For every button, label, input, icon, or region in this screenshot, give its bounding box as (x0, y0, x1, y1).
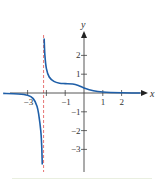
y-tick-label: −3 (71, 144, 81, 154)
y-tick-label: 2 (76, 50, 81, 60)
y-tick-label: −2 (71, 126, 81, 136)
x-tick-label: −1 (61, 97, 71, 107)
bottom-rule (12, 178, 152, 179)
y-axis-label: y (80, 19, 86, 30)
y-tick-label: 1 (76, 69, 81, 79)
axis-ticks: −3−112−3−2−112 (24, 50, 125, 154)
y-tick-label: −1 (71, 107, 81, 117)
x-axis-arrow-icon (141, 90, 148, 96)
y-axis-arrow-icon (81, 31, 87, 38)
x-axis-label: x (149, 88, 155, 99)
x-tick-label: 2 (120, 97, 125, 107)
function-graph: x y −3−112−3−2−112 (0, 0, 160, 180)
x-tick-label: 1 (101, 97, 106, 107)
right-branch-curve (44, 38, 140, 93)
